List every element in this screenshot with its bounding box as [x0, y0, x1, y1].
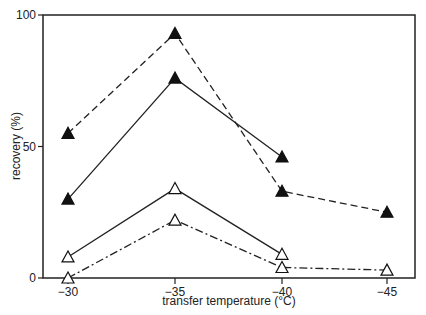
- y-tick-label: 50: [23, 140, 37, 154]
- series-group: [62, 27, 393, 283]
- filled-triangle-marker: [381, 206, 393, 217]
- y-tick-label: 100: [16, 8, 36, 22]
- x-axis-label: transfer temperature (°C): [162, 294, 296, 308]
- open-triangle-marker: [169, 214, 181, 225]
- open-triangle-marker: [169, 183, 181, 194]
- series-line: [68, 78, 282, 199]
- filled-triangle-marker: [276, 151, 288, 162]
- y-tick-label: 0: [29, 271, 36, 285]
- x-tick-label: −30: [58, 285, 79, 299]
- y-axis-label: recovery (%): [9, 112, 23, 180]
- x-tick-label: −45: [377, 285, 398, 299]
- plot-frame: [43, 15, 415, 278]
- series-line: [68, 220, 387, 278]
- series-line: [68, 33, 387, 212]
- filled-triangle-marker: [169, 72, 181, 83]
- open-triangle-marker: [62, 251, 74, 262]
- filled-triangle-marker: [169, 27, 181, 38]
- recovery-chart: 050100 −30−35−40−45 transfer temperature…: [0, 0, 426, 315]
- open-triangle-marker: [276, 248, 288, 259]
- filled-triangle-marker: [276, 185, 288, 196]
